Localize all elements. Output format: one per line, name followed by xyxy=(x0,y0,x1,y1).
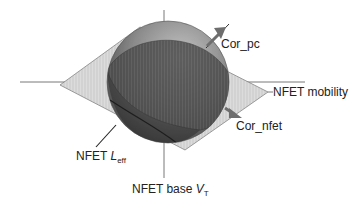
nfet-leff-label: NFET Leff xyxy=(76,150,126,165)
leff-axis xyxy=(96,125,116,147)
cor-nfet-label: Cor_nfet xyxy=(236,120,282,132)
nfet-base-vt-label: NFET base VT xyxy=(132,183,209,198)
nfet-mobility-label: NFET mobility xyxy=(273,86,348,98)
cor-pc-label: Cor_pc xyxy=(221,38,260,50)
correlation-diagram xyxy=(0,0,355,201)
